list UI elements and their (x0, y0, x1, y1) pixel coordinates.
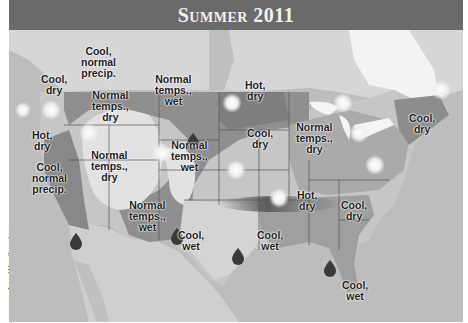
title-bar: Summer 2011 (9, 0, 463, 30)
sun-icon (269, 188, 289, 208)
label-louisiana: Cool, wet (257, 230, 283, 252)
sun-icon (222, 93, 242, 113)
map-title: Summer 2011 (178, 4, 295, 27)
label-great-basin: Normal temps., dry (91, 150, 128, 183)
sun-icon (15, 102, 31, 118)
sun-icon (333, 93, 353, 113)
label-intermountain: Normal temps., dry (92, 90, 129, 123)
sun-icon (431, 80, 451, 100)
label-carolinas: Cool, dry (341, 200, 367, 222)
label-ca-coast: Cool, normal precip. (32, 162, 67, 195)
label-southwest: Normal temps., wet (129, 200, 166, 233)
label-n-rockies: Cool, normal precip. (81, 46, 116, 79)
label-iowa: Cool, dry (247, 128, 273, 150)
label-great-lakes: Normal temps., dry (296, 122, 333, 155)
label-florida: Cool, wet (342, 280, 368, 302)
label-tennessee: Hot, dry (297, 190, 317, 212)
label-new-england: Cool, dry (409, 113, 435, 135)
sun-icon (365, 155, 385, 175)
label-n-plains: Normal temps., wet (155, 74, 192, 107)
label-ca-interior: Hot, dry (32, 130, 52, 152)
map-frame: Summer 2011 (9, 0, 463, 322)
label-texas: Cool, wet (178, 230, 204, 252)
sun-icon (349, 123, 369, 143)
sun-icon (152, 143, 172, 163)
sun-icon (79, 123, 99, 143)
label-c-plains: Normal temps., wet (171, 140, 208, 173)
label-pnw-coast: Cool, dry (41, 74, 67, 96)
label-upper-midwest: Hot, dry (245, 80, 265, 102)
weather-map (9, 30, 463, 322)
sun-icon (41, 100, 61, 120)
sun-icon (226, 160, 246, 180)
